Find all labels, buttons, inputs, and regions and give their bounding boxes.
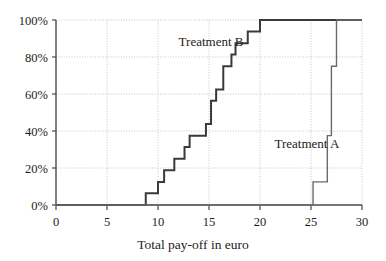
y-tick-label: 0%	[31, 199, 48, 213]
x-tick-label: 20	[254, 215, 267, 229]
x-axis-title: Total pay-off in euro	[137, 237, 249, 252]
y-tick-label: 40%	[25, 125, 48, 139]
chart-canvas: 0%20%40%60%80%100% 051015202530 Treatmen…	[0, 0, 386, 261]
y-tick-label: 100%	[19, 14, 48, 28]
annotation-treatment-b: Treatment B	[179, 34, 244, 49]
x-tick-label: 30	[356, 215, 369, 229]
y-tick-label: 60%	[25, 88, 48, 102]
cdf-chart: 0%20%40%60%80%100% 051015202530 Treatmen…	[0, 0, 386, 261]
x-tick-label: 25	[305, 215, 318, 229]
annotation-treatment-a: Treatment A	[274, 136, 339, 151]
y-tick-label: 80%	[25, 51, 48, 65]
x-tick-label: 10	[152, 215, 165, 229]
y-tick-label: 20%	[25, 162, 48, 176]
x-tick-label: 15	[203, 215, 216, 229]
x-tick-label: 5	[104, 215, 110, 229]
x-tick-label: 0	[53, 215, 59, 229]
